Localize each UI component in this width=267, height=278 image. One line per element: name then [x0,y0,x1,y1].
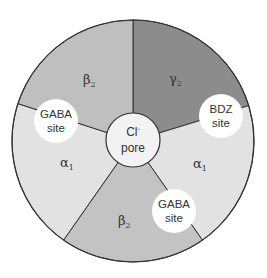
svg-text:pore: pore [121,141,145,155]
svg-text:site: site [47,122,65,134]
gaba-a-receptor-diagram: β2 γ2 α1 α1 β2 GABA site BDZ site GABA s… [0,0,267,278]
gaba-site-bottom: GABA site [152,189,196,233]
svg-text:GABA: GABA [158,198,190,210]
chloride-pore: Cl- pore [106,113,160,167]
svg-text:BDZ: BDZ [210,103,233,115]
svg-text:GABA: GABA [40,108,72,120]
svg-text:site: site [165,212,183,224]
svg-text:site: site [212,117,230,129]
bdz-site: BDZ site [199,94,243,138]
gaba-site-left: GABA site [34,99,78,143]
